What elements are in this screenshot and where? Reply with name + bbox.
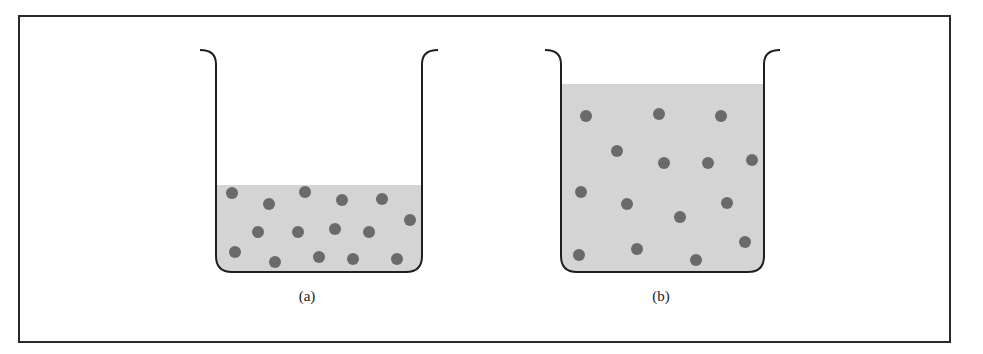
particle bbox=[391, 253, 403, 265]
particle bbox=[611, 145, 623, 157]
particle bbox=[376, 193, 388, 205]
particle bbox=[715, 110, 727, 122]
particle bbox=[229, 246, 241, 258]
particle bbox=[573, 249, 585, 261]
particle bbox=[658, 157, 670, 169]
beaker-b bbox=[545, 50, 780, 272]
particle bbox=[347, 253, 359, 265]
particle bbox=[674, 211, 686, 223]
particle bbox=[404, 214, 416, 226]
particle bbox=[299, 186, 311, 198]
particle bbox=[575, 186, 587, 198]
particle bbox=[313, 251, 325, 263]
particle bbox=[363, 226, 375, 238]
particle bbox=[739, 236, 751, 248]
particle bbox=[653, 108, 665, 120]
beaker-a bbox=[200, 50, 438, 272]
particle bbox=[690, 254, 702, 266]
panel-label-b: (b) bbox=[652, 288, 670, 305]
particle bbox=[292, 226, 304, 238]
panel-label-a: (a) bbox=[299, 288, 316, 305]
beakers-diagram bbox=[0, 0, 983, 354]
particle bbox=[621, 198, 633, 210]
particle bbox=[252, 226, 264, 238]
particle bbox=[746, 154, 758, 166]
particle bbox=[580, 110, 592, 122]
particle bbox=[226, 187, 238, 199]
particle bbox=[336, 194, 348, 206]
particle bbox=[269, 256, 281, 268]
particle bbox=[702, 157, 714, 169]
particle bbox=[329, 223, 341, 235]
particle bbox=[263, 198, 275, 210]
particle bbox=[631, 243, 643, 255]
particle bbox=[721, 197, 733, 209]
